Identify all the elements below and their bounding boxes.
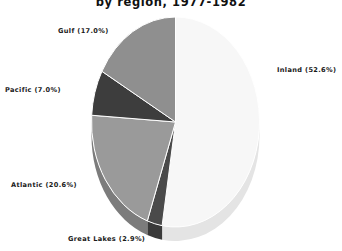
pie-label-pacific: Pacific (7.0%): [5, 86, 61, 94]
pie-chart-graphic: [0, 0, 342, 251]
pie-label-great-lakes: Great Lakes (2.9%): [68, 235, 145, 243]
pie-chart-figure: by region, 1977-1982 Gulf (17.0%) Inland…: [0, 0, 342, 251]
pie-label-gulf: Gulf (17.0%): [58, 27, 109, 35]
pie-slice-inland[interactable]: [162, 17, 259, 227]
pie-label-atlantic: Atlantic (20.6%): [11, 181, 77, 189]
pie-label-inland: Inland (52.6%): [277, 66, 336, 74]
pie-slices: [92, 17, 260, 227]
